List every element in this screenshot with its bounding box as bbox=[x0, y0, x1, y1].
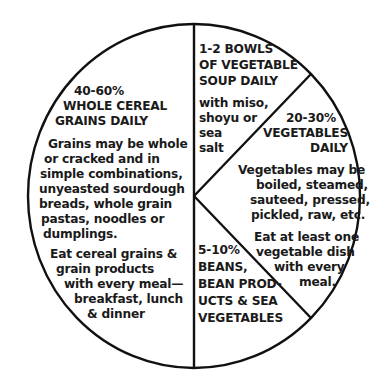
grains-body-line: breads, whole grain bbox=[39, 197, 172, 212]
grains-note-line: with every meal— bbox=[64, 277, 183, 292]
grains-body-line: or cracked and in bbox=[44, 152, 160, 167]
soup-body-line: shoyu or bbox=[199, 111, 257, 126]
beans-heading-line: BEAN PROD- bbox=[198, 277, 282, 292]
grains-body-line: simple combinations, bbox=[40, 167, 183, 182]
vegetables-note-line: with every bbox=[274, 260, 345, 275]
vegetables-note-line: vegetable dish bbox=[256, 245, 355, 260]
vegetables-body-line: boiled, steamed, bbox=[256, 178, 368, 193]
grains-note-line: breakfast, lunch bbox=[74, 292, 183, 307]
grains-body-line: dumplings. bbox=[43, 227, 117, 242]
soup-body-line: with miso, bbox=[199, 96, 268, 111]
beans-heading-line: 5-10% bbox=[198, 243, 240, 258]
soup-heading-line: SOUP DAILY bbox=[199, 74, 278, 89]
grains-note-line: grain products bbox=[56, 262, 154, 277]
soup-heading-line: OF VEGETABLE bbox=[199, 58, 298, 73]
soup-body-line: salt bbox=[199, 141, 224, 156]
vegetables-heading-line: 20-30% bbox=[286, 111, 336, 126]
grains-body-line: unyeasted sourdough bbox=[39, 182, 185, 197]
beans-heading-line: VEGETABLES bbox=[198, 311, 283, 326]
grains-body-line: Grains may be whole bbox=[48, 137, 188, 152]
beans-heading-line: BEANS, bbox=[198, 260, 247, 275]
vegetables-body-line: sauteed, pressed, bbox=[250, 193, 370, 208]
grains-heading-line: 40-60% bbox=[74, 84, 124, 99]
grains-note-line: Eat cereal grains & bbox=[50, 247, 177, 262]
vegetables-heading-line: VEGETABLES bbox=[263, 126, 348, 141]
grains-heading-line: GRAINS DAILY bbox=[55, 114, 148, 129]
vegetables-body-line: pickled, raw, etc. bbox=[251, 208, 365, 223]
soup-body-line: sea bbox=[199, 126, 222, 141]
beans-heading-line: UCTS & SEA bbox=[198, 294, 278, 309]
pie-diagram: 40-60% WHOLE CEREAL GRAINS DAILY Grains … bbox=[0, 0, 387, 385]
grains-note-line: & dinner bbox=[87, 307, 145, 322]
vegetables-heading-line: DAILY bbox=[310, 141, 348, 156]
vegetables-note-line: meal. bbox=[299, 275, 336, 290]
vegetables-body-line: Vegetables may be bbox=[238, 163, 365, 178]
grains-body-line: pastas, noodles or bbox=[41, 212, 164, 227]
vegetables-note-line: Eat at least one bbox=[254, 230, 359, 245]
grains-heading-line: WHOLE CEREAL bbox=[63, 99, 167, 114]
soup-heading-line: 1-2 BOWLS bbox=[199, 42, 273, 57]
